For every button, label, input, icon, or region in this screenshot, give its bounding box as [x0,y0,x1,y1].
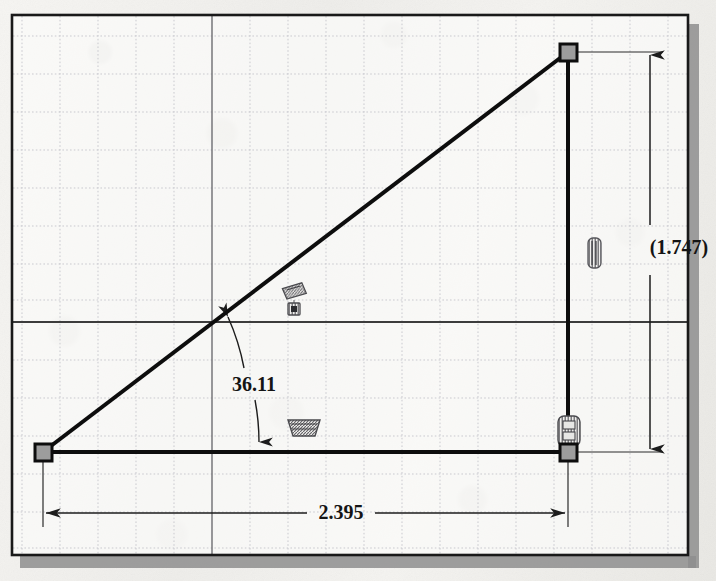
vertical-icon-lower-cell [563,432,575,440]
cad-sketch-viewport[interactable]: 2.395 (1.747) 36.11 [0,0,716,581]
horizontal-icon[interactable] [288,420,320,436]
dimension-angle-value[interactable]: 36.11 [232,373,276,395]
point-apex-vertex[interactable] [560,44,577,61]
coincident-icon-dot [291,306,297,312]
vertical-icon-dim[interactable] [588,238,601,268]
point-bottom-right-vertex[interactable] [560,444,577,461]
dimension-horizontal-value[interactable]: 2.395 [319,501,364,523]
dimension-vertical-value[interactable]: (1.747) [650,236,708,259]
constraint-vertical-dim[interactable] [588,238,601,268]
sketch-canvas[interactable]: 2.395 (1.747) 36.11 [0,0,716,581]
constraint-horizontal-base[interactable] [288,420,320,436]
vertical-icon-upper-cell [563,421,575,429]
constraint-vertical-right[interactable] [558,416,580,446]
point-origin-vertex[interactable] [35,444,52,461]
